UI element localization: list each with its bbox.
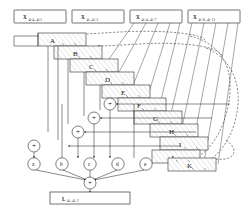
adder-3-symbol: + xyxy=(76,128,80,136)
stage-box-a-label: A xyxy=(50,37,55,45)
stage-box-e[interactable]: E xyxy=(102,85,150,98)
output-register-name: L xyxy=(62,196,66,202)
stage-box-h-label: H xyxy=(169,128,174,136)
sum-node-b-label: b xyxy=(60,161,63,167)
stage-box-h[interactable]: H xyxy=(150,124,198,137)
sum-node-c[interactable]: c xyxy=(84,158,96,170)
diagram-canvas: X 4i-4...4i-1 X 4i...4i+3 X 4i+4...4i+7 … xyxy=(0,0,245,206)
input-register-2-subscript: 4i+4...4i+7 xyxy=(142,18,157,22)
stage-box-i[interactable]: I xyxy=(160,137,208,150)
stage-box-c-label: C xyxy=(89,63,94,71)
sum-node-d[interactable]: d xyxy=(112,158,124,170)
sum-node-group: a b c d e xyxy=(28,158,152,170)
adder-4[interactable]: + xyxy=(28,140,40,152)
sum-node-d-label: d xyxy=(116,161,119,167)
input-register-group: X 4i-4...4i-1 X 4i...4i+3 X 4i+4...4i+7 … xyxy=(14,10,240,23)
stage-box-f-label: F xyxy=(137,102,141,110)
input-register-3-name: X xyxy=(193,14,197,20)
stage-box-g-label: G xyxy=(153,115,158,123)
input-register-0-subscript: 4i-4...4i-1 xyxy=(29,18,43,22)
input-register-2-name: X xyxy=(136,14,140,20)
input-register-2[interactable]: X 4i+4...4i+7 xyxy=(130,10,182,23)
final-adder-symbol: + xyxy=(88,179,92,187)
adder-3[interactable]: + xyxy=(72,126,84,138)
stage-box-b[interactable]: B xyxy=(54,46,102,59)
adder-group: + + + + xyxy=(28,98,116,152)
input-register-0[interactable]: X 4i-4...4i-1 xyxy=(14,10,66,23)
diagram-svg: X 4i-4...4i-1 X 4i...4i+3 X 4i+4...4i+7 … xyxy=(0,0,245,206)
stage-box-c[interactable]: C xyxy=(70,59,118,72)
input-register-1[interactable]: X 4i...4i+3 xyxy=(72,10,124,23)
stage-box-a[interactable]: A xyxy=(38,33,86,46)
stage-box-d[interactable]: D xyxy=(86,72,134,85)
adder-4-symbol: + xyxy=(32,142,36,150)
input-register-3[interactable]: X 4i+8...4i+11 xyxy=(188,10,240,23)
stage-box-f[interactable]: F xyxy=(118,98,166,111)
adder-1[interactable]: + xyxy=(104,98,116,110)
stage-box-k-label: K xyxy=(187,162,192,170)
input-register-0-name: X xyxy=(23,14,27,20)
stage-box-group: A B C D xyxy=(38,33,216,171)
adder-2-symbol: + xyxy=(92,114,96,122)
output-register[interactable]: L 4i...4i+3 xyxy=(50,192,130,204)
stage-box-k[interactable]: K xyxy=(168,158,216,171)
input-register-1-subscript: 4i...4i+3 xyxy=(87,18,99,22)
adder-2[interactable]: + xyxy=(88,112,100,124)
input-register-1-name: X xyxy=(81,14,85,20)
final-adder[interactable]: + xyxy=(84,177,96,189)
sum-node-a[interactable]: a xyxy=(28,158,40,170)
stage-box-d-label: D xyxy=(105,76,110,84)
stage-box-b-label: B xyxy=(73,50,78,58)
sum-node-b[interactable]: b xyxy=(56,158,68,170)
stage-box-g[interactable]: G xyxy=(134,111,182,124)
output-register-subscript: 4i...4i+3 xyxy=(67,199,79,203)
stage-box-e-label: E xyxy=(121,89,125,97)
adder-1-symbol: + xyxy=(108,100,112,108)
input-register-3-subscript: 4i+8...4i+11 xyxy=(199,18,216,22)
sum-node-e[interactable]: e xyxy=(140,158,152,170)
